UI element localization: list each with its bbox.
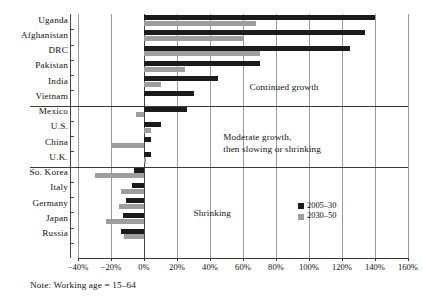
x-tick-label--40: −40% xyxy=(62,262,94,272)
chart-legend: 2005–302030–50 xyxy=(298,201,336,222)
bar-u-k--2005-30 xyxy=(144,152,151,157)
bar-u-s--2005-30 xyxy=(144,122,161,127)
bar-u-s--2030-50 xyxy=(144,128,151,133)
y-tick-mark xyxy=(70,151,74,152)
legend-swatch-icon xyxy=(298,203,304,209)
bar-india-2005-30 xyxy=(144,76,218,81)
bar-china-2005-30 xyxy=(144,137,151,142)
category-label-u-k-: U.K. xyxy=(49,152,68,162)
annotation-continued-growth: Continued growth xyxy=(250,82,319,94)
category-label-uganda: Uganda xyxy=(38,15,68,25)
y-tick-mark xyxy=(70,106,74,107)
x-tick-label-140: 140% xyxy=(359,262,391,272)
y-tick-mark xyxy=(70,121,74,122)
legend-swatch-icon xyxy=(298,214,304,220)
bar-vietnam-2005-30 xyxy=(144,91,194,96)
bar-uganda-2030-50 xyxy=(144,21,256,26)
x-tick-label-20: 20% xyxy=(161,262,193,272)
group-divider xyxy=(30,167,408,168)
bar-italy-2005-30 xyxy=(132,183,144,188)
bar-italy-2030-50 xyxy=(121,189,144,194)
y-tick-mark xyxy=(70,75,74,76)
x-tick-mark-120 xyxy=(342,258,343,261)
bar-drc-2030-50 xyxy=(144,51,260,56)
x-tick-label-120: 120% xyxy=(326,262,358,272)
bar-mexico-2030-50 xyxy=(136,112,144,117)
x-tick-mark-0 xyxy=(144,258,145,261)
x-tick-mark-60 xyxy=(243,258,244,261)
category-axis: UgandaAfghanistanDRCPakistanIndiaVietnam… xyxy=(0,14,68,258)
legend-label: 2030–50 xyxy=(307,211,336,221)
x-tick-mark--40 xyxy=(78,258,79,261)
y-tick-mark xyxy=(70,60,74,61)
x-tick-mark-140 xyxy=(375,258,376,261)
x-tick-label-40: 40% xyxy=(194,262,226,272)
category-label-vietnam: Vietnam xyxy=(36,91,68,101)
bar-germany-2005-30 xyxy=(126,198,144,203)
category-label-germany: Germany xyxy=(32,198,68,208)
category-label-china: China xyxy=(45,137,68,147)
y-tick-mark xyxy=(70,167,74,168)
category-label-russia: Russia xyxy=(42,228,68,238)
y-tick-mark xyxy=(70,228,74,229)
bar-afghanistan-2030-50 xyxy=(144,36,243,41)
bar-china-2030-50 xyxy=(111,143,144,148)
category-label-india: India xyxy=(48,76,68,86)
category-label-so-korea: So. Korea xyxy=(29,167,68,177)
bar-so-korea-2030-50 xyxy=(95,173,145,178)
category-label-u-s-: U.S. xyxy=(51,121,68,131)
y-tick-mark xyxy=(70,197,74,198)
bar-afghanistan-2005-30 xyxy=(144,30,365,35)
gridline-140 xyxy=(375,14,376,258)
x-tick-mark-100 xyxy=(309,258,310,261)
category-label-pakistan: Pakistan xyxy=(35,60,68,70)
bar-pakistan-2005-30 xyxy=(144,61,260,66)
category-label-afghanistan: Afghanistan xyxy=(21,30,68,40)
bar-india-2030-50 xyxy=(144,82,161,87)
gridline-160 xyxy=(408,14,409,258)
category-label-mexico: Mexico xyxy=(39,106,68,116)
y-tick-mark xyxy=(70,243,74,244)
bar-drc-2005-30 xyxy=(144,46,350,51)
group-divider xyxy=(30,106,408,107)
y-tick-mark xyxy=(70,29,74,30)
x-tick-mark-160 xyxy=(408,258,409,261)
bar-u-k--2030-50 xyxy=(144,158,146,163)
annotation-moderate-growth-line1: Moderate growth, xyxy=(223,132,291,144)
chart-note: Note: Working age = 15–64 xyxy=(30,280,136,291)
legend-item-series-2005-30: 2005–30 xyxy=(298,201,336,211)
category-label-japan: Japan xyxy=(46,213,68,223)
y-tick-mark xyxy=(70,182,74,183)
y-tick-mark xyxy=(70,45,74,46)
gridline--40 xyxy=(78,14,79,258)
bar-mexico-2005-30 xyxy=(144,107,187,112)
bar-russia-2030-50 xyxy=(124,234,144,239)
y-tick-mark xyxy=(70,90,74,91)
bar-germany-2030-50 xyxy=(119,204,144,209)
bar-japan-2005-30 xyxy=(123,213,144,218)
x-tick-label--20: −20% xyxy=(95,262,127,272)
bar-russia-2005-30 xyxy=(121,229,144,234)
x-tick-mark--20 xyxy=(111,258,112,261)
bar-japan-2030-50 xyxy=(106,219,144,224)
x-tick-label-100: 100% xyxy=(293,262,325,272)
bar-so-korea-2005-30 xyxy=(134,168,144,173)
x-tick-mark-40 xyxy=(210,258,211,261)
x-tick-label-80: 80% xyxy=(260,262,292,272)
bar-uganda-2005-30 xyxy=(144,15,375,20)
category-label-drc: DRC xyxy=(49,45,69,55)
y-tick-mark xyxy=(70,136,74,137)
annotation-shrinking: Shrinking xyxy=(194,208,232,220)
x-tick-mark-20 xyxy=(177,258,178,261)
legend-item-series-2030-50: 2030–50 xyxy=(298,211,336,221)
category-label-italy: Italy xyxy=(50,182,68,192)
x-tick-label-0: 0% xyxy=(128,262,160,272)
x-tick-label-60: 60% xyxy=(227,262,259,272)
y-tick-mark xyxy=(70,212,74,213)
x-tick-label-160: 160% xyxy=(392,262,423,272)
legend-label: 2005–30 xyxy=(307,201,336,211)
x-tick-mark-80 xyxy=(276,258,277,261)
bar-pakistan-2030-50 xyxy=(144,67,185,72)
annotation-moderate-growth-line2: then slowing or shrinking xyxy=(223,144,321,156)
